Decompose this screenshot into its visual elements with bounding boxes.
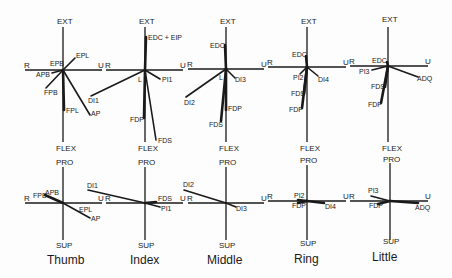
muscle-moment-arm-diagram: EXT R U FLEX EPL EPB APB FPB FPL AP PRO … [0, 0, 452, 278]
axis-ext: EXT [139, 17, 155, 26]
muscle-label: PI1 [161, 205, 172, 212]
muscle-label: FPB [44, 89, 58, 96]
muscle-label: EPB [50, 60, 64, 67]
axis-flex: FLEX [138, 144, 159, 153]
muscle-label: DI4 [318, 76, 329, 83]
axis-ext: EXT [382, 15, 398, 24]
muscle-label: FDS [158, 137, 172, 144]
axis-r: R [267, 58, 273, 67]
axis-u: U [98, 194, 104, 203]
muscle-label: FDP [368, 101, 382, 108]
muscle-label: EDC [372, 57, 387, 64]
axis-r: R [267, 192, 273, 201]
muscle-label: L [219, 74, 223, 81]
muscle-label: AP [91, 110, 101, 117]
axis-sup: SUP [219, 241, 235, 250]
axis-sup: SUP [56, 241, 72, 250]
thumb-top-panel: EXT R U FLEX EPL EPB APB FPB FPL AP [24, 17, 104, 153]
axis-ext: EXT [301, 17, 317, 26]
axis-u: U [425, 57, 431, 66]
axis-u: U [98, 61, 104, 70]
middle-top-panel: EXT R U FLEX EDC L DI3 DI2 FDP FDS [184, 17, 267, 153]
axis-u: U [180, 194, 186, 203]
axis-ext: EXT [57, 17, 73, 26]
muscle-label: DI4 [325, 203, 336, 210]
muscle-label: FDS [371, 83, 385, 90]
muscle-label: EPL [79, 206, 92, 213]
muscle-label: DI1 [87, 182, 98, 189]
muscle-label: FDS [158, 195, 172, 202]
muscle-label: DI3 [235, 76, 246, 83]
muscle-label: PI2 [294, 192, 305, 199]
index-bottom-panel: PRO R U SUP DI1 FDS PI1 Index [87, 158, 186, 267]
muscle-label: PI2 [293, 74, 304, 81]
axis-r: R [349, 57, 355, 66]
ring-bottom-panel: PRO R U SUP PI2 FDP DI4 Ring [267, 156, 349, 266]
finger-title: Little [372, 250, 398, 264]
finger-title: Index [130, 253, 159, 267]
axis-u: U [180, 61, 186, 70]
index-top-panel: EXT R U FLEX EDC + EIP L PI1 DI1 FDP FDS [88, 17, 186, 153]
muscle-label: EDC [210, 42, 225, 49]
axis-ext: EXT [220, 17, 236, 26]
muscle-label: ADQ [415, 204, 431, 212]
muscle-label: FDP [289, 106, 303, 113]
muscle-label: PI3 [368, 187, 379, 194]
middle-bottom-panel: PRO R U SUP DI2 DI3 Middle [183, 158, 267, 267]
muscle-label: FDS [291, 90, 305, 97]
muscle-label: L [138, 76, 142, 83]
axis-r: R [187, 194, 193, 203]
muscle-label: FPL [66, 107, 79, 114]
axis-r: R [24, 61, 30, 70]
axis-r: R [349, 192, 355, 201]
ring-top-panel: EXT R U FLEX EDC PI2 DI4 FDS FDP [267, 17, 349, 153]
axis-r: R [105, 61, 111, 70]
finger-title: Middle [207, 253, 243, 267]
muscle-label: EPL [76, 52, 89, 59]
little-top-panel: EXT R U FLEX EDC PI3 ADQ FDS FDP [349, 15, 433, 153]
axis-sup: SUP [138, 241, 154, 250]
axis-r: R [187, 60, 193, 69]
little-bottom-panel: PRO R U SUP PI3 FDP ADQ Little [349, 155, 431, 264]
axis-pro: PRO [300, 156, 317, 165]
muscle-label: EDC [292, 51, 307, 58]
muscle-label: DI2 [184, 99, 195, 106]
axis-sup: SUP [300, 239, 316, 248]
muscle-label: APB [45, 189, 59, 196]
muscle-label: DI1 [88, 97, 99, 104]
axis-pro: PRO [219, 158, 236, 167]
muscle-label: ADQ [417, 75, 433, 83]
muscle-label: AP [91, 215, 101, 222]
muscle-label: DI3 [236, 205, 247, 212]
muscle-label: DI2 [183, 181, 194, 188]
axis-flex: FLEX [300, 144, 321, 153]
muscle-label: FDS [209, 121, 223, 128]
muscle-label: FDP [292, 202, 306, 209]
axis-u: U [425, 192, 431, 201]
axis-flex: FLEX [219, 144, 240, 153]
muscle-label: FDP [130, 116, 144, 123]
axis-pro: PRO [138, 158, 155, 167]
muscle-label: PI1 [162, 76, 173, 83]
muscle-label: EDC + EIP [148, 34, 182, 41]
axis-r: R [24, 194, 30, 203]
axis-sup: SUP [383, 237, 399, 246]
finger-title: Thumb [47, 253, 85, 267]
axis-pro: PRO [56, 158, 73, 167]
muscle-label: FDP [228, 105, 242, 112]
axis-pro: PRO [383, 155, 400, 164]
muscle-label: FDP [369, 202, 383, 209]
finger-title: Ring [294, 252, 319, 266]
muscle-label: PI3 [359, 68, 370, 75]
axis-flex: FLEX [56, 144, 77, 153]
axis-flex: FLEX [382, 144, 403, 153]
thumb-bottom-panel: PRO R U SUP FPB APB EPL AP Thumb [24, 158, 104, 267]
muscle-label: APB [36, 71, 50, 78]
